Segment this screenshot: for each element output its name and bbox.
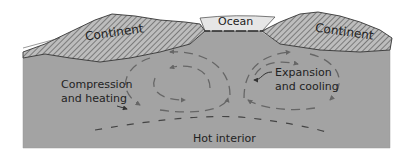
compression-label-line2: and heating [61,92,127,105]
compression-label-line1: Compression [61,78,132,91]
mantle-convection-diagram: Continent Continent Ocean Compression an… [0,0,417,155]
hot-interior-label: Hot interior [193,132,256,145]
expansion-label-line1: Expansion [275,66,332,79]
expansion-label-line2: and cooling [275,80,339,93]
ocean-label: Ocean [218,15,253,28]
